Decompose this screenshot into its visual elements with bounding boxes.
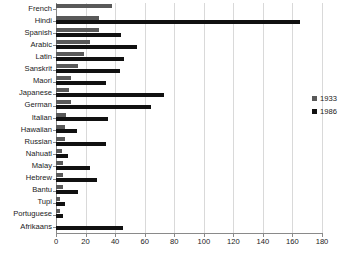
bar-1986 [56,105,151,109]
bar-1986 [56,81,106,85]
chart-legend: 19331986 [312,92,350,118]
y-tick-mark [53,142,56,143]
bar-1986 [56,142,106,146]
category-label: Hawaiian [0,126,52,134]
bar-1933 [56,161,63,165]
category-label: Hebrew [0,174,52,182]
bar-row [56,172,322,184]
bar-row [56,27,322,39]
bar-row [56,185,322,197]
y-tick-mark [53,57,56,58]
category-label: Portuguese [0,210,52,218]
legend-item: 1986 [312,105,350,118]
y-tick-mark [53,82,56,83]
bar-row [56,100,322,112]
y-tick-mark [53,70,56,71]
category-label: Afrikaans [0,223,52,231]
bar-1933 [56,149,62,153]
bar-1986 [56,154,68,158]
plot-area [56,3,322,233]
x-tick-label: 0 [54,237,58,246]
bar-1986 [56,190,78,194]
bar-row [56,88,322,100]
x-axis-ticks: 020406080100120140160180 [56,234,323,248]
bar-1986 [56,129,77,133]
category-label: Arabic [0,41,52,49]
bar-1933 [56,64,78,68]
bar-1986 [56,117,108,121]
bar-1933 [56,197,60,201]
bar-1933 [56,52,84,56]
bar-1933 [56,28,99,32]
x-tick-label: 60 [140,237,148,246]
y-tick-mark [53,45,56,46]
category-label: Russian [0,138,52,146]
bar-row [56,51,322,63]
bar-1933 [56,113,66,117]
category-label: Sanskrit [0,65,52,73]
gridline [322,3,323,233]
bar-1986 [56,69,120,73]
y-tick-mark [53,227,56,228]
bar-row [56,221,322,233]
x-tick-label: 120 [227,237,240,246]
bar-row [56,197,322,209]
bar-1986 [56,226,123,230]
y-axis-category-labels: FrenchHindiSpanishArabicLatinSanskritMao… [0,3,52,233]
bar-1933 [56,173,63,177]
bar-1933 [56,16,99,20]
bar-1986 [56,93,164,97]
category-label: Latin [0,53,52,61]
bar-rows [56,3,322,233]
bar-chart: FrenchHindiSpanishArabicLatinSanskritMao… [0,0,350,254]
y-tick-mark [53,215,56,216]
bar-row [56,64,322,76]
category-label: French [0,5,52,13]
y-tick-mark [53,154,56,155]
bar-1933 [56,100,71,104]
bar-row [56,39,322,51]
bar-1986 [56,214,63,218]
category-label: Maori [0,77,52,85]
bar-row [56,112,322,124]
bar-1986 [56,33,121,37]
y-tick-mark [53,203,56,204]
bar-1933 [56,4,112,8]
bar-1986 [56,20,300,24]
category-label: German [0,101,52,109]
y-tick-mark [53,130,56,131]
bar-1933 [56,76,71,80]
category-label: Nahuatl [0,150,52,158]
y-tick-mark [53,21,56,22]
y-tick-mark [53,118,56,119]
bar-1933 [56,209,60,213]
y-tick-mark [53,179,56,180]
legend-swatch-icon [312,96,317,101]
x-tick-label: 160 [286,237,299,246]
y-tick-mark [53,106,56,107]
bar-1933 [56,125,65,129]
bar-row [56,76,322,88]
y-tick-mark [53,166,56,167]
y-tick-mark [53,191,56,192]
bar-1986 [56,57,124,61]
x-tick-label: 20 [81,237,89,246]
bar-1933 [56,88,69,92]
bar-1986 [56,166,90,170]
category-label: Malay [0,162,52,170]
legend-swatch-icon [312,109,317,114]
legend-item: 1933 [312,92,350,105]
x-tick-label: 40 [111,237,119,246]
bar-1933 [56,40,90,44]
category-label: Bantu [0,186,52,194]
y-tick-mark [53,94,56,95]
bar-row [56,15,322,27]
legend-label: 1933 [320,94,337,103]
bar-1986 [56,202,65,206]
bar-row [56,209,322,221]
x-tick-label: 180 [316,237,329,246]
category-label: Hindi [0,17,52,25]
bar-1933 [56,137,65,141]
bar-1986 [56,178,97,182]
y-tick-mark [53,33,56,34]
